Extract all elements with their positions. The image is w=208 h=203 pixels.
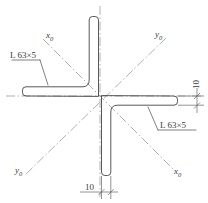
profile-label-upper-left: L 63×5 xyxy=(10,51,36,60)
axis-y0-diagonal xyxy=(26,38,166,174)
axis-label-x0-lower-right: x0 xyxy=(174,167,181,178)
technical-drawing-canvas: x0 y0 y0 x0 L 63×5 L 63×5 10 10 xyxy=(0,0,208,203)
profile-label-lower-right: L 63×5 xyxy=(160,121,186,130)
leader-pointer-upper-left xyxy=(40,60,48,85)
axis-label-y0-lower-left: y0 xyxy=(15,166,22,177)
axis-label-x0-upper-left: x0 xyxy=(46,31,53,42)
dimension-label-bottom: 10 xyxy=(85,183,94,192)
axis-label-y0-upper-right: y0 xyxy=(155,30,162,41)
leader-pointer-lower-right xyxy=(148,107,158,130)
dimension-label-right: 10 xyxy=(192,78,201,92)
